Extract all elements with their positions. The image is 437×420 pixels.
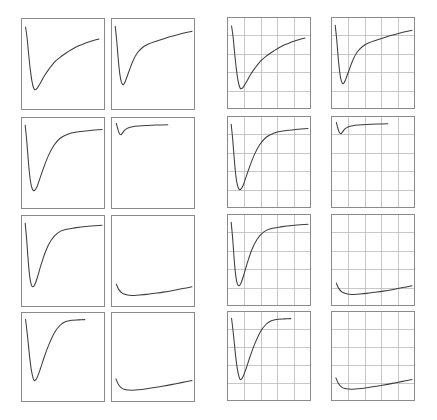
panel-frame [331,311,415,401]
plot-panel-r1c2 [111,18,195,110]
plot-panel-r2c1 [21,117,105,209]
panel-frame [227,116,311,208]
panel-frame [111,18,195,110]
plot-panel-r4c2 [111,312,195,402]
plot-panel-r1c4 [331,17,415,109]
plot-panel-r4c4 [331,311,415,401]
panel-frame [227,311,311,401]
plot-panel-r2c3 [227,116,311,208]
plot-panel-r1c3 [227,17,311,109]
panel-frame [331,116,415,208]
panel-frame [21,18,105,110]
plot-panel-r3c2 [111,215,195,307]
plot-panel-r2c2 [111,117,195,209]
plot-panel-r3c4 [331,214,415,306]
plot-panel-r4c3 [227,311,311,401]
panel-frame [111,117,195,209]
panel-frame [21,312,105,402]
panel-frame [21,117,105,209]
plot-panel-r3c3 [227,214,311,306]
panel-frame [227,214,311,306]
plot-panel-r2c4 [331,116,415,208]
panel-frame [331,17,415,109]
panel-frame [331,214,415,306]
panel-frame [21,215,105,307]
plot-panel-r4c1 [21,312,105,402]
panel-frame [227,17,311,109]
panel-frame [111,312,195,402]
plot-panel-r3c1 [21,215,105,307]
figure-panel-grid [0,0,437,420]
panel-frame [111,215,195,307]
plot-panel-r1c1 [21,18,105,110]
